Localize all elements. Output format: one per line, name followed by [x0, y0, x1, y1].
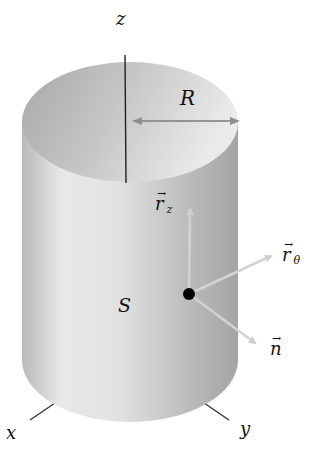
surface-label: S	[118, 296, 131, 315]
rz-label: →rz	[155, 195, 172, 215]
x-axis-label: x	[6, 424, 16, 442]
cylinder-graphic	[0, 0, 315, 452]
surface-point	[183, 288, 195, 300]
z-axis-line	[125, 55, 126, 183]
cylinder-top	[22, 62, 238, 182]
cylinder-diagram: z R S x y →rz →rθ →n	[0, 0, 315, 452]
z-axis-label: z	[116, 10, 125, 28]
normal-label: →n	[270, 340, 282, 358]
y-axis-label: y	[240, 420, 250, 438]
rz-vector	[189, 209, 190, 294]
rtheta-label: →rθ	[282, 246, 300, 266]
x-axis-line	[30, 403, 55, 420]
radius-label: R	[180, 88, 195, 108]
y-axis-line	[204, 403, 229, 420]
